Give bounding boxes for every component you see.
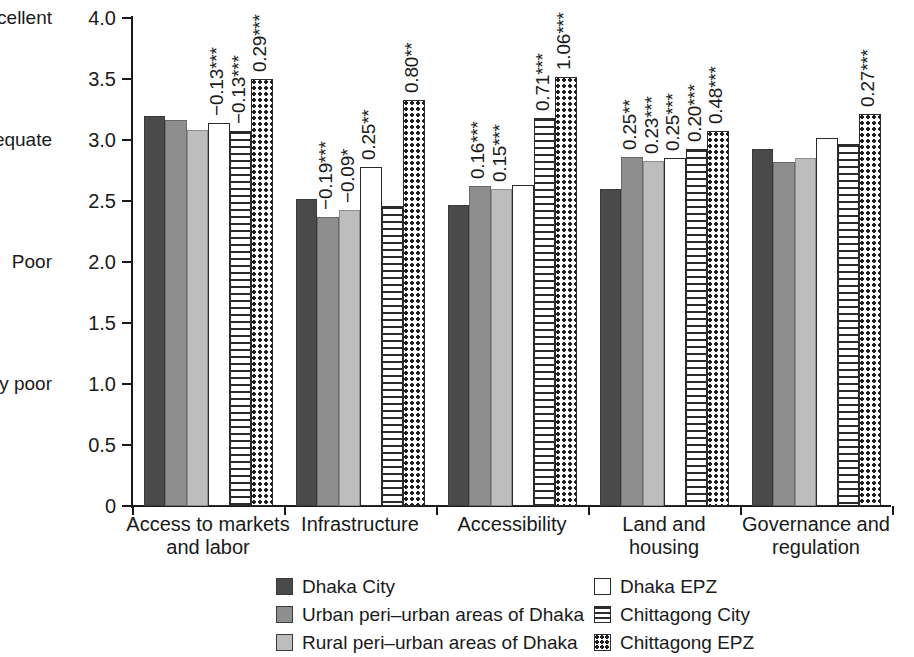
legend-column-left: Dhaka CityUrban peri–urban areas of Dhak… xyxy=(276,572,594,656)
bar xyxy=(251,79,273,506)
bar-value-label: 1.06*** xyxy=(554,12,573,70)
legend-label: Rural peri–urban areas of Dhaka xyxy=(302,633,578,652)
x-category-line: and labor xyxy=(119,536,297,559)
bar xyxy=(230,131,252,506)
legend-label: Dhaka City xyxy=(302,577,395,596)
legend-label: Dhaka EPZ xyxy=(620,577,717,596)
y-tick-mark xyxy=(122,322,132,324)
legend-item[interactable]: Chittagong EPZ xyxy=(594,628,914,656)
y-tick-label: 3.5 xyxy=(54,69,116,89)
y-tick-label: 1.5 xyxy=(54,313,116,333)
bar xyxy=(555,77,577,506)
legend-item[interactable]: Dhaka EPZ xyxy=(594,572,914,600)
y-tick-mark xyxy=(122,261,132,263)
bar xyxy=(144,116,166,506)
y-scale-word: Very poor xyxy=(0,374,52,393)
bar-value-label: 0.25** xyxy=(359,109,378,160)
y-tick-label: 4.0 xyxy=(54,8,116,28)
bar-value-label: 0.15*** xyxy=(490,124,509,182)
chart-legend: Dhaka CityUrban peri–urban areas of Dhak… xyxy=(276,572,914,657)
bar xyxy=(643,161,665,506)
legend-item[interactable]: Chittagong City xyxy=(594,600,914,628)
bar-group: −0.19***−0.09*0.25**0.80** xyxy=(284,18,436,506)
y-scale-word: Poor xyxy=(0,252,52,271)
bar xyxy=(469,186,491,506)
bar xyxy=(686,149,708,506)
bar xyxy=(664,158,686,506)
bar xyxy=(296,199,318,506)
bar xyxy=(165,120,187,506)
plot-area: −0.13***−0.13***0.29***−0.19***−0.09*0.2… xyxy=(132,18,892,506)
y-tick-mark xyxy=(122,17,132,19)
bar-value-label: 0.25** xyxy=(620,100,639,151)
y-tick-mark xyxy=(122,383,132,385)
bar-value-label: 0.29*** xyxy=(250,14,269,72)
bar xyxy=(859,114,881,506)
bar-value-label: 0.48*** xyxy=(706,67,725,125)
y-tick-label: 0.5 xyxy=(54,435,116,455)
x-category-label: Governance andregulation xyxy=(727,513,905,559)
legend-column-right: Dhaka EPZChittagong CityChittagong EPZ xyxy=(594,572,914,656)
bar-value-label: 0.25*** xyxy=(663,94,682,152)
bar xyxy=(600,189,622,506)
legend-item[interactable]: Dhaka City xyxy=(276,572,594,600)
legend-swatch-icon xyxy=(276,606,293,623)
legend-swatch-icon xyxy=(594,634,611,651)
bar xyxy=(360,167,382,506)
bar xyxy=(491,189,513,506)
legend-swatch-icon xyxy=(594,606,611,623)
bar xyxy=(382,206,404,506)
bar xyxy=(208,123,230,506)
y-tick-mark xyxy=(122,200,132,202)
bar-chart: 00.51.01.52.02.53.03.54.0 Very poorPoorA… xyxy=(0,0,914,657)
bar-value-label: −0.13*** xyxy=(229,56,248,125)
bar-value-label: −0.19*** xyxy=(316,141,335,210)
y-scale-word: Adequate xyxy=(0,130,52,149)
x-category-line: Governance and xyxy=(727,513,905,536)
bar xyxy=(187,130,209,506)
y-tick-label: 0 xyxy=(54,496,116,516)
bar xyxy=(339,210,361,506)
legend-item[interactable]: Rural peri–urban areas of Dhaka xyxy=(276,628,594,656)
legend-item[interactable]: Urban peri–urban areas of Dhaka xyxy=(276,600,594,628)
y-tick-label: 3.0 xyxy=(54,130,116,150)
legend-label: Chittagong City xyxy=(620,605,750,624)
bar-value-label: 0.20*** xyxy=(685,84,704,142)
legend-swatch-icon xyxy=(594,578,611,595)
y-tick-mark xyxy=(122,505,132,507)
bar xyxy=(707,131,729,506)
y-tick-mark xyxy=(122,444,132,446)
bar-value-label: −0.13*** xyxy=(207,47,226,116)
y-tick-label: 1.0 xyxy=(54,374,116,394)
bar xyxy=(838,144,860,506)
bar xyxy=(448,205,470,506)
bar-value-label: −0.09* xyxy=(338,148,357,202)
bar-group: 0.25**0.23***0.25***0.20***0.48*** xyxy=(588,18,740,506)
bar xyxy=(816,138,838,506)
bar-group: 0.27*** xyxy=(740,18,892,506)
bar xyxy=(317,217,339,506)
y-scale-word: Excellent xyxy=(0,8,52,27)
y-tick-label: 2.0 xyxy=(54,252,116,272)
bar xyxy=(621,157,643,506)
bar-value-label: 0.23*** xyxy=(642,96,661,154)
legend-label: Chittagong EPZ xyxy=(620,633,754,652)
x-category-line: regulation xyxy=(727,536,905,559)
bar-value-label: 0.27*** xyxy=(858,50,877,108)
legend-swatch-icon xyxy=(276,578,293,595)
legend-swatch-icon xyxy=(276,634,293,651)
y-tick-mark xyxy=(122,78,132,80)
bar-value-label: 0.71*** xyxy=(533,53,552,111)
legend-label: Urban peri–urban areas of Dhaka xyxy=(302,605,584,624)
bar-value-label: 0.16*** xyxy=(468,122,487,180)
bar xyxy=(512,185,534,506)
y-tick-mark xyxy=(122,139,132,141)
bar xyxy=(773,162,795,506)
bar xyxy=(752,149,774,506)
y-tick-label: 2.5 xyxy=(54,191,116,211)
bar-group: −0.13***−0.13***0.29*** xyxy=(132,18,284,506)
bar-value-label: 0.80** xyxy=(402,42,421,93)
bar-group: 0.16***0.15***0.71***1.06*** xyxy=(436,18,588,506)
bar xyxy=(403,100,425,506)
bar xyxy=(795,158,817,506)
